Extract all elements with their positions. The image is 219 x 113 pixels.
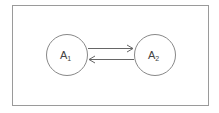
- arrow-a1-to-a2: [88, 45, 133, 52]
- frame-border: [13, 6, 209, 106]
- node-a1: A1: [47, 35, 88, 76]
- arrow-a2-to-a1: [89, 56, 134, 63]
- node-a2: A2: [135, 35, 176, 76]
- diagram-canvas: A1 A2: [0, 0, 219, 113]
